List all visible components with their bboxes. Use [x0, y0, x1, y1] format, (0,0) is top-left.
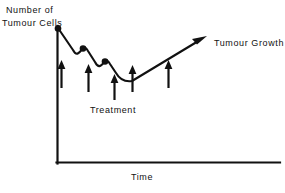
treatment-arrow — [85, 64, 93, 92]
treatment-arrow — [111, 74, 119, 100]
y-axis-label-line2: Tumour Cells — [2, 17, 62, 29]
tumour-growth-annotation: Tumour Growth — [214, 37, 284, 49]
y-axis-label-line1: Number of — [6, 4, 53, 16]
curve-marker-dot — [102, 58, 109, 65]
curve-marker-dot — [80, 45, 87, 52]
treatment-arrow — [58, 60, 66, 88]
treatment-arrow — [165, 60, 173, 88]
x-axis-label: Time — [131, 171, 153, 183]
tumour-growth-figure: Number of Tumour Cells Tumour Growth Tre… — [0, 0, 285, 193]
treatment-annotation: Treatment — [90, 104, 136, 116]
